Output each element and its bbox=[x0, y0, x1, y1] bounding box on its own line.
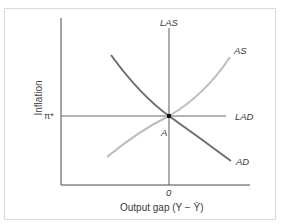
y-axis-label: Inflation bbox=[33, 80, 44, 115]
point-a-label: A bbox=[161, 128, 167, 138]
y-tick-pi-star: π* bbox=[44, 112, 54, 121]
as-label: AS bbox=[234, 46, 247, 56]
x-axis-label: Output gap (Y − Ȳ) bbox=[120, 203, 203, 213]
lad-label: LAD bbox=[235, 112, 253, 122]
ad-curve bbox=[111, 55, 231, 161]
x-tick-zero: 0 bbox=[166, 188, 171, 198]
ad-label: AD bbox=[236, 157, 249, 167]
equilibrium-point bbox=[167, 114, 171, 118]
las-label: LAS bbox=[160, 18, 178, 28]
